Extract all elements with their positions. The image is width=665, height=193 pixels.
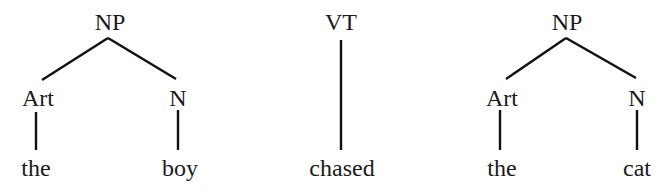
edge-np2-art	[506, 38, 566, 79]
leaf-cat: cat	[623, 156, 651, 180]
node-n-2: N	[628, 86, 645, 110]
edge-np1-art	[42, 38, 108, 80]
leaf-boy: boy	[162, 156, 198, 180]
node-art-2: Art	[486, 86, 518, 110]
node-np-2: NP	[552, 10, 583, 34]
edge-np1-n	[108, 38, 176, 79]
leaf-the-1: the	[21, 156, 50, 180]
node-n-1: N	[169, 86, 186, 110]
node-vt: VT	[325, 10, 357, 34]
leaf-chased: chased	[309, 156, 374, 180]
node-art-1: Art	[22, 86, 54, 110]
node-np-1: NP	[95, 10, 126, 34]
syntax-diagram: NP Art N the boy VT chased NP Art N the …	[0, 0, 665, 193]
leaf-the-2: the	[487, 156, 516, 180]
edge-np2-n	[566, 38, 636, 78]
